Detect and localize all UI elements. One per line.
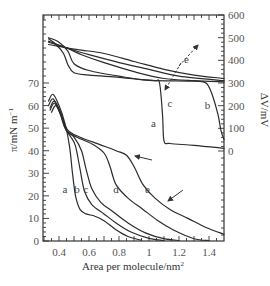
y-right-tick-label: 500: [228, 32, 245, 44]
y-left-tick-label: 30: [28, 167, 40, 179]
y-axis-right-ticks: 0100200300400500600: [218, 9, 245, 235]
arrow-collapse-e: [135, 156, 152, 160]
x-tick-label: 0.8: [112, 246, 126, 258]
x-tick-label: 1: [146, 246, 152, 258]
y-axis-left-ticks: 010203040506070: [28, 20, 49, 247]
y-left-tick-label: 70: [28, 77, 40, 89]
pi-curve-a: [49, 94, 142, 240]
delta-v-curve-d: [49, 42, 225, 80]
curve-label-b: b: [205, 99, 211, 111]
curve-label-b: b: [74, 183, 80, 195]
y-right-tick-label: 400: [228, 54, 245, 66]
y-left-tick-label: 40: [28, 145, 40, 157]
curve-label-d: d: [113, 183, 119, 195]
pi-curve-c: [50, 101, 179, 240]
arrow-tail-e: [168, 190, 183, 201]
x-tick-label: 0.4: [52, 246, 66, 258]
y-axis-right-title: ΔV/mV: [259, 93, 270, 128]
y-left-tick-label: 0: [34, 235, 40, 247]
delta-v-curve-a: [49, 39, 225, 149]
x-tick-label: 0.6: [82, 246, 96, 258]
curve-label-c: c: [168, 97, 173, 109]
curve-label-e: e: [145, 183, 150, 195]
y-left-tick-label: 60: [28, 100, 40, 112]
y-axis-left-title: π/mN m−1: [7, 108, 19, 152]
delta-v-curve-b: [49, 38, 225, 140]
y-left-tick-label: 50: [28, 122, 40, 134]
pi-curve-e: [52, 106, 225, 235]
x-tick-label: 1.2: [172, 246, 186, 258]
pi-curve-d: [50, 103, 209, 240]
surface-pressure-curves: [49, 94, 225, 240]
y-left-tick-label: 10: [28, 212, 40, 224]
delta-v-curves: [49, 38, 225, 149]
curve-label-c: c: [84, 183, 89, 195]
x-tick-label: 1.4: [202, 246, 216, 258]
pi-curve-b: [49, 99, 165, 241]
x-axis-title: Area per molecule/nm2: [82, 260, 184, 272]
y-right-tick-label: 200: [228, 100, 245, 112]
chart: 010203040506070 0100200300400500600 0.40…: [0, 0, 270, 286]
curve-label-a: a: [63, 183, 68, 195]
y-right-tick-label: 600: [228, 9, 245, 21]
y-left-tick-label: 20: [28, 190, 40, 202]
annotations: abceabcde: [63, 45, 211, 201]
y-right-tick-label: 0: [228, 145, 234, 157]
y-right-tick-label: 100: [228, 122, 245, 134]
curve-label-a: a: [151, 117, 156, 129]
y-right-tick-label: 300: [228, 77, 245, 89]
